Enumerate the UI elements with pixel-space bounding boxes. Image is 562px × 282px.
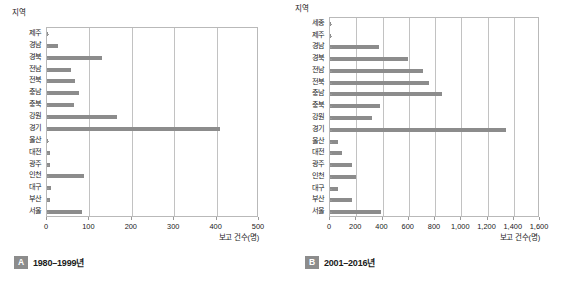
y-tick-mark <box>330 71 332 72</box>
gridline <box>174 28 175 216</box>
category-label: 광주 <box>0 160 42 168</box>
x-tick-label: 800 <box>428 222 440 231</box>
y-tick-mark <box>330 94 332 95</box>
x-tick-mark <box>487 217 488 220</box>
x-tick-mark <box>408 217 409 220</box>
y-tick-mark <box>47 188 49 189</box>
x-tick-label: 1,000 <box>451 222 470 231</box>
panel-badge-a: A <box>14 256 28 269</box>
x-tick-label: 0 <box>44 222 48 231</box>
x-axis-title-b: 보고 건수(명) <box>500 231 540 242</box>
y-tick-mark <box>47 165 49 166</box>
x-tick-mark <box>216 217 217 220</box>
gridline <box>461 18 462 216</box>
bar <box>47 174 84 178</box>
gridline <box>383 18 384 216</box>
category-label: 경북 <box>0 53 42 61</box>
panel-b: 지역 세종제주경남경북전남전북충남충북강원경기울산대전광주인천대구부산서울 02… <box>281 0 562 282</box>
category-label: 경남 <box>281 42 325 50</box>
gridline <box>435 18 436 216</box>
y-tick-mark <box>47 117 49 118</box>
y-tick-mark <box>47 212 49 213</box>
x-tick-mark <box>382 217 383 220</box>
panel-badge-b: B <box>305 256 319 269</box>
y-tick-mark <box>47 58 49 59</box>
bar <box>47 91 79 95</box>
category-label: 서울 <box>281 207 325 215</box>
bar <box>47 127 220 131</box>
category-label: 대구 <box>0 183 42 191</box>
category-label: 광주 <box>281 160 325 168</box>
category-label: 서울 <box>0 207 42 215</box>
y-tick-mark <box>330 165 332 166</box>
x-tick-label: 1,200 <box>477 222 496 231</box>
gridline <box>514 18 515 216</box>
y-tick-mark <box>47 176 49 177</box>
category-label: 인천 <box>281 172 325 180</box>
bar <box>330 57 408 61</box>
x-tick-label: 1,600 <box>530 222 549 231</box>
bar <box>330 104 380 108</box>
bar <box>330 198 352 202</box>
category-label: 충북 <box>0 100 42 108</box>
plot-area-b <box>329 17 539 217</box>
y-tick-mark <box>330 212 332 213</box>
y-tick-mark <box>47 153 49 154</box>
category-label: 강원 <box>281 113 325 121</box>
y-tick-mark <box>330 83 332 84</box>
y-tick-mark <box>330 106 332 107</box>
y-tick-mark <box>330 189 332 190</box>
x-tick-label: 400 <box>209 222 221 231</box>
category-label: 전북 <box>281 78 325 86</box>
x-tick-mark <box>539 217 540 220</box>
bar <box>47 68 71 72</box>
y-tick-mark <box>47 81 49 82</box>
y-tick-mark <box>47 46 49 47</box>
category-label: 대구 <box>281 184 325 192</box>
category-label: 충남 <box>0 88 42 96</box>
y-axis-title-a: 지역 <box>12 6 26 17</box>
bar <box>47 79 75 83</box>
x-tick-mark <box>329 217 330 220</box>
category-label: 경남 <box>0 41 42 49</box>
x-tick-label: 400 <box>375 222 387 231</box>
category-label: 전남 <box>281 66 325 74</box>
category-label: 부산 <box>0 195 42 203</box>
gridline <box>488 18 489 216</box>
bar <box>330 175 356 179</box>
figure-root: 지역 제주경남경북전남전북충남충북강원경기울산대전광주인천대구부산서울 0100… <box>0 0 562 282</box>
y-axis-title-b: 지역 <box>295 2 309 13</box>
x-tick-label: 200 <box>349 222 361 231</box>
category-label: 경기 <box>281 125 325 133</box>
y-tick-mark <box>47 129 49 130</box>
x-tick-mark <box>173 217 174 220</box>
y-tick-mark <box>330 153 332 154</box>
x-tick-mark <box>46 217 47 220</box>
x-tick-label: 300 <box>167 222 179 231</box>
bar <box>330 128 506 132</box>
caption-b: B 2001–2016년 <box>305 256 375 269</box>
x-tick-mark <box>131 217 132 220</box>
x-tick-mark <box>434 217 435 220</box>
bar <box>47 103 74 107</box>
gridline <box>409 18 410 216</box>
bar <box>330 210 381 214</box>
bar <box>330 116 372 120</box>
gridline <box>217 28 218 216</box>
x-tick-label: 1,400 <box>504 222 523 231</box>
y-tick-mark <box>47 105 49 106</box>
y-tick-mark <box>330 47 332 48</box>
y-tick-mark <box>330 177 332 178</box>
x-axis-title-a: 보고 건수(명) <box>219 231 259 242</box>
y-tick-mark <box>47 141 49 142</box>
y-tick-mark <box>47 70 49 71</box>
bar <box>47 115 117 119</box>
panel-a: 지역 제주경남경북전남전북충남충북강원경기울산대전광주인천대구부산서울 0100… <box>0 0 281 282</box>
category-label: 대전 <box>281 148 325 156</box>
y-tick-mark <box>330 118 332 119</box>
caption-text-b: 2001–2016년 <box>324 256 375 269</box>
category-label: 울산 <box>281 137 325 145</box>
y-tick-mark <box>330 142 332 143</box>
x-tick-mark <box>88 217 89 220</box>
y-tick-mark <box>330 130 332 131</box>
